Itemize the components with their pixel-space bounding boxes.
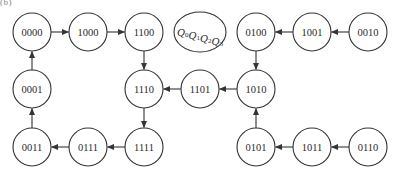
state-label: 0011 xyxy=(22,142,43,153)
state-variable-legend: Q0Q1Q2Q3 xyxy=(174,12,226,52)
state-node-0111: 0111 xyxy=(69,128,107,166)
state-label: 1100 xyxy=(134,27,155,38)
state-node-0001: 0001 xyxy=(13,70,51,108)
state-label: 1111 xyxy=(134,142,154,153)
state-label: 1101 xyxy=(190,84,211,95)
state-label: 1001 xyxy=(302,27,323,38)
state-node-1100: 1100 xyxy=(125,13,163,51)
state-node-0011: 0011 xyxy=(13,128,51,166)
state-label: 1110 xyxy=(134,84,154,95)
state-node-1110: 1110 xyxy=(125,70,163,108)
state-label: 0001 xyxy=(22,84,43,95)
state-diagram: 0000100011000100100100100001111011011010… xyxy=(0,0,396,180)
state-node-1000: 1000 xyxy=(69,13,107,51)
state-label: 0100 xyxy=(246,27,267,38)
state-label: 0111 xyxy=(78,142,98,153)
state-node-1001: 1001 xyxy=(293,13,331,51)
state-node-1010: 1010 xyxy=(237,70,275,108)
state-label: 1011 xyxy=(302,142,323,153)
state-node-0010: 0010 xyxy=(349,13,387,51)
state-node-0101: 0101 xyxy=(237,128,275,166)
state-label: 0101 xyxy=(246,142,267,153)
state-node-0000: 0000 xyxy=(13,13,51,51)
state-node-1101: 1101 xyxy=(181,70,219,108)
state-label: 0110 xyxy=(358,142,379,153)
state-node-1111: 1111 xyxy=(125,128,163,166)
state-label: 0000 xyxy=(22,27,43,38)
state-node-0110: 0110 xyxy=(349,128,387,166)
state-label: 1010 xyxy=(246,84,267,95)
state-node-1011: 1011 xyxy=(293,128,331,166)
state-label: 0010 xyxy=(358,27,379,38)
state-node-0100: 0100 xyxy=(237,13,275,51)
state-label: 1000 xyxy=(78,27,99,38)
